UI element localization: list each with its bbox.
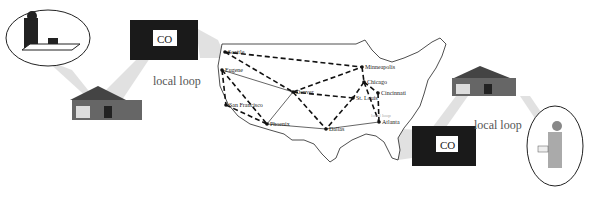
local-loop-label-left: local loop <box>153 74 201 89</box>
local-loop-label-map: local loop <box>371 113 391 118</box>
city-node <box>291 90 295 94</box>
city-node <box>351 96 355 100</box>
city-label: Denver <box>296 89 314 95</box>
city-node <box>223 50 227 54</box>
city-node <box>224 103 228 107</box>
city-label: Cincinnati <box>381 90 406 96</box>
city-label: Phoenix <box>270 121 290 127</box>
local-loop-label-right: local loop <box>474 118 522 133</box>
left-co-building[interactable]: CO <box>130 20 198 60</box>
city-label: Minneapolis <box>365 64 395 70</box>
right-co-building[interactable]: CO <box>412 126 476 166</box>
right-phone-user <box>527 106 583 186</box>
city-label: Eugene <box>225 67 243 73</box>
right-house[interactable] <box>452 66 516 96</box>
city-label: Atlanta <box>382 119 400 125</box>
city-node <box>377 120 381 124</box>
left-phone-user <box>6 10 90 66</box>
city-label: Seattle <box>228 49 244 55</box>
city-node <box>360 65 364 69</box>
city-node <box>362 80 366 84</box>
svg-text:CO: CO <box>440 139 455 151</box>
svg-text:CO: CO <box>157 33 172 45</box>
network-diagram: CO CO <box>0 0 593 202</box>
city-node <box>324 127 328 131</box>
city-label: Chicago <box>367 79 387 85</box>
callout-right-loop <box>432 96 468 130</box>
city-node <box>265 122 269 126</box>
city-label: St. Louis <box>356 95 378 101</box>
city-node <box>220 68 224 72</box>
city-label: Dallas <box>329 126 344 132</box>
city-label: San Francisco <box>229 102 263 108</box>
